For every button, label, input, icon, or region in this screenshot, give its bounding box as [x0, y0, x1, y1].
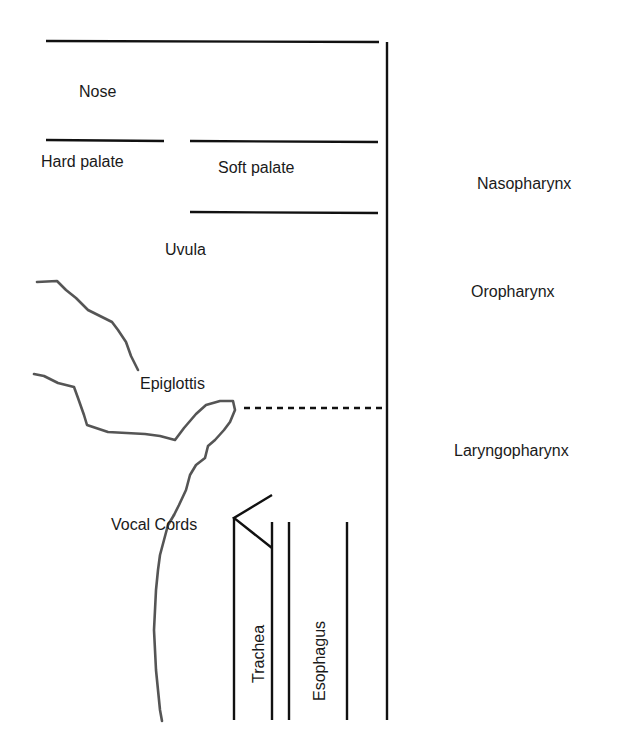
- label-hard-palate: Hard palate: [41, 153, 124, 170]
- larynx-anterior-wall: [154, 515, 174, 721]
- label-uvula: Uvula: [165, 241, 206, 258]
- label-soft-palate: Soft palate: [218, 159, 295, 176]
- label-vocal-cords: Vocal Cords: [111, 516, 197, 533]
- epiglottis-outline: [34, 374, 235, 515]
- tongue-outline: [37, 281, 138, 370]
- label-epiglottis: Epiglottis: [140, 375, 205, 392]
- label-nasopharynx: Nasopharynx: [477, 175, 571, 192]
- soft-palate-top-line: [190, 141, 378, 142]
- nose-top-line: [46, 41, 379, 42]
- vocal-cords-shape: [234, 495, 272, 548]
- label-esophagus: Esophagus: [311, 621, 328, 701]
- soft-palate-bottom-line: [190, 212, 378, 213]
- label-oropharynx: Oropharynx: [471, 283, 555, 300]
- label-laryngopharynx: Laryngopharynx: [454, 442, 569, 459]
- hard-palate-line: [46, 140, 164, 141]
- label-nose: Nose: [79, 83, 116, 100]
- pharynx-diagram: Nose Hard palate Soft palate Uvula Epigl…: [0, 0, 626, 748]
- label-trachea: Trachea: [250, 625, 267, 683]
